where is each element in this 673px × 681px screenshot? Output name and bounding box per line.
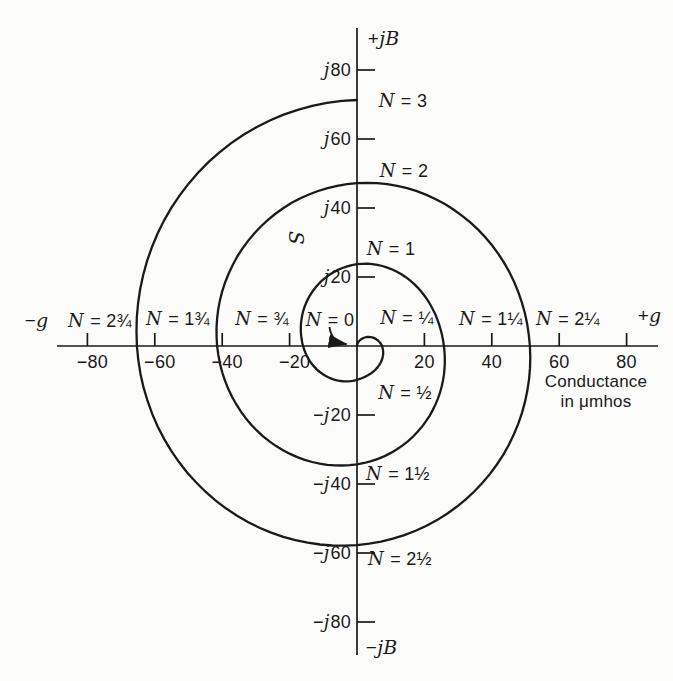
- n-marker-label: N = 1: [367, 240, 415, 258]
- y-axis-negative-label: −jB: [366, 638, 398, 657]
- y-tick-label: j40: [324, 199, 351, 217]
- n-marker-label: N = 1½: [366, 465, 430, 483]
- x-axis-caption-line2: in μmhos: [561, 393, 632, 410]
- y-tick-label: j60: [324, 130, 351, 148]
- spiral-curve-label: S: [286, 231, 306, 245]
- x-tick-label: −40: [211, 353, 242, 371]
- y-tick-label: −j40: [313, 475, 351, 493]
- x-tick-label: 20: [414, 353, 435, 371]
- n-marker-label: N = ¾: [235, 310, 288, 328]
- y-tick-label: −j60: [313, 544, 351, 562]
- y-axis-positive-label: +jB: [368, 29, 400, 48]
- x-axis-negative-label: −g: [25, 311, 50, 330]
- x-tick-label: −80: [77, 353, 108, 371]
- n-marker-label: N = 0: [306, 311, 354, 329]
- y-tick-label: j80: [324, 61, 351, 79]
- n-marker-label: N = 2¼: [536, 310, 600, 328]
- x-tick-label: −20: [279, 353, 310, 371]
- y-tick-label: −j20: [313, 406, 351, 424]
- admittance-spiral-figure: −80−60−40−2020406080j80j60j40j20−j20−j40…: [0, 0, 673, 681]
- n-marker-label: N = ¼: [380, 309, 433, 327]
- y-tick-label: −j80: [313, 613, 351, 631]
- x-tick-label: 40: [481, 353, 502, 371]
- y-tick-label: j20: [324, 268, 351, 286]
- n-marker-label: N = 2¾: [68, 312, 132, 330]
- x-axis-positive-label: +g: [638, 306, 663, 325]
- n-marker-label: N = ½: [378, 384, 431, 402]
- n-marker-label: N = 3: [379, 92, 427, 110]
- plot-canvas: [0, 0, 673, 681]
- n-marker-label: N = 2: [380, 162, 428, 180]
- x-tick-label: −60: [144, 353, 175, 371]
- x-tick-label: 60: [549, 353, 570, 371]
- n-marker-label: N = 1¼: [459, 310, 523, 328]
- n-marker-label: N = 1¾: [146, 310, 210, 328]
- x-tick-label: 80: [616, 353, 637, 371]
- x-axis-caption-line1: Conductance: [545, 373, 647, 390]
- n-marker-label: N = 2½: [368, 550, 432, 568]
